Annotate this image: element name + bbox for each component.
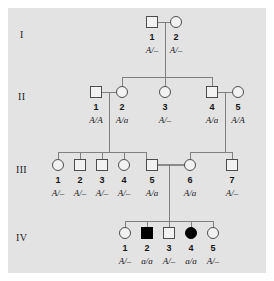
sibling-drop-II-2 <box>122 77 123 86</box>
sibling-drop-III-6 <box>190 152 191 159</box>
individual-II-2-genotype: A/a <box>109 116 135 125</box>
individual-III-6-number: 6 <box>180 176 200 185</box>
individual-IV-1-number: 1 <box>115 244 135 253</box>
individual-II-5-genotype: A/A <box>225 116 251 125</box>
sibling-drop-III-3 <box>102 152 103 159</box>
individual-IV-4-number: 4 <box>181 244 201 253</box>
individual-IV-3-symbol-male <box>163 227 175 239</box>
individual-II-3-genotype: A/– <box>152 116 178 125</box>
individual-II-1-number: 1 <box>86 103 106 112</box>
individual-III-2-symbol-male <box>74 159 86 171</box>
generation-label-4: IV <box>16 233 27 243</box>
sibling-drop-III-1 <box>58 152 59 159</box>
individual-III-3-number: 3 <box>92 176 112 185</box>
individual-III-5-symbol-male <box>146 159 158 171</box>
individual-III-6-symbol-female <box>184 159 196 171</box>
individual-III-2-number: 2 <box>70 176 90 185</box>
individual-III-7-number: 7 <box>222 176 242 185</box>
individual-II-5-number: 5 <box>228 103 248 112</box>
individual-II-5-symbol-female <box>232 86 244 98</box>
individual-IV-5-number: 5 <box>203 244 223 253</box>
individual-IV-4-symbol-female-affected <box>185 227 197 239</box>
descent-line-III5-III6-to-gen4 <box>169 164 170 221</box>
individual-IV-5-symbol-female <box>207 227 219 239</box>
pedigree-panel: I 1 2 A/– A/– II 1 2 3 4 5 A/A <box>8 8 266 273</box>
pedigree-figure: I 1 2 A/– A/– II 1 2 3 4 5 A/A <box>0 0 274 281</box>
individual-II-4-number: 4 <box>202 103 222 112</box>
individual-III-6-genotype: A/a <box>177 189 203 198</box>
individual-II-2-symbol-female <box>116 86 128 98</box>
generation-label-3: III <box>16 165 27 175</box>
individual-IV-2-symbol-male-affected <box>141 227 153 239</box>
sibship-line-gen2 <box>122 77 213 78</box>
individual-II-1-symbol-male <box>90 86 102 98</box>
individual-III-1-symbol-female <box>52 159 64 171</box>
individual-III-3-symbol-male <box>96 159 108 171</box>
individual-IV-1-symbol-female <box>119 227 131 239</box>
individual-IV-5-genotype: A/– <box>200 257 226 266</box>
individual-II-3-number: 3 <box>155 103 175 112</box>
individual-III-1-number: 1 <box>48 176 68 185</box>
individual-II-3-symbol-female <box>159 86 171 98</box>
individual-I-1-genotype: A/– <box>139 46 165 55</box>
generation-label-2: II <box>18 92 25 102</box>
sibling-drop-III-5 <box>146 152 147 159</box>
sibling-drop-III-2 <box>80 152 81 159</box>
sibling-drop-III-4 <box>124 152 125 159</box>
individual-III-4-genotype: A/– <box>111 189 137 198</box>
individual-I-2-genotype: A/– <box>163 46 189 55</box>
individual-III-5-genotype: A/a <box>139 189 165 198</box>
individual-III-4-symbol-female <box>118 159 130 171</box>
individual-III-7-genotype: A/– <box>219 189 245 198</box>
sibling-drop-II-3 <box>165 77 166 86</box>
individual-II-4-genotype: A/a <box>199 116 225 125</box>
individual-I-2-number: 2 <box>166 33 186 42</box>
individual-III-4-number: 4 <box>114 176 134 185</box>
sibling-drop-III-7 <box>232 152 233 159</box>
individual-I-2-symbol-female <box>170 16 182 28</box>
individual-III-7-symbol-male <box>226 159 238 171</box>
sibship-line-gen3-right <box>190 152 232 153</box>
individual-IV-3-number: 3 <box>159 244 179 253</box>
individual-I-1-number: 1 <box>142 33 162 42</box>
individual-II-1-genotype: A/A <box>83 116 109 125</box>
sibling-drop-II-4 <box>212 77 213 86</box>
individual-II-4-symbol-male <box>206 86 218 98</box>
individual-II-2-number: 2 <box>112 103 132 112</box>
generation-label-1: I <box>20 30 24 40</box>
individual-III-5-number: 5 <box>142 176 162 185</box>
individual-IV-2-number: 2 <box>137 244 157 253</box>
individual-I-1-symbol-male <box>146 16 158 28</box>
